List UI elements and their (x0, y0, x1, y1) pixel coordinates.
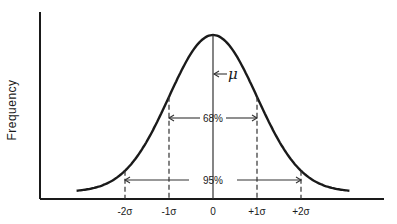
mu-label: μ (228, 65, 238, 83)
x-tick-label: +2σ (292, 206, 310, 217)
one-sigma-interval-label: 68% (203, 113, 223, 124)
two-sigma-interval-label: 95% (203, 175, 223, 186)
x-tick-label: -2σ (117, 206, 133, 217)
y-axis-label: Frequency (5, 79, 19, 140)
x-tick-label: -1σ (161, 206, 177, 217)
x-tick-label: +1σ (248, 206, 266, 217)
normal-distribution-chart: Frequency -2σ-1σ0+1σ+2σ μ68%95% (0, 0, 397, 224)
x-tick-label: 0 (210, 206, 216, 217)
